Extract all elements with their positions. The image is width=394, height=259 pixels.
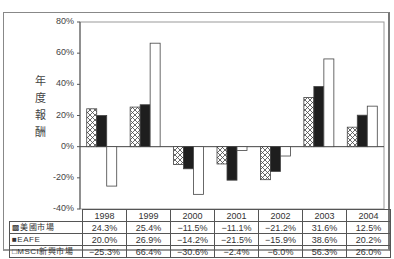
table-cell: −14.2%	[171, 234, 215, 246]
bar	[150, 43, 160, 146]
table-cell: −2.4%	[215, 246, 259, 258]
plot-border	[80, 22, 384, 209]
table-year-header: 1999	[127, 210, 171, 222]
bar	[347, 127, 357, 146]
bar	[367, 106, 377, 147]
bar	[304, 97, 314, 146]
table-cell: 26.9%	[127, 234, 171, 246]
table-year-header: 2001	[215, 210, 259, 222]
table-year-header: 2000	[171, 210, 215, 222]
table-cell: 38.6%	[303, 234, 347, 246]
bar	[184, 147, 194, 169]
bar	[217, 147, 227, 164]
bar	[194, 147, 204, 195]
bar	[260, 147, 270, 180]
legend-series-label: ▩美國市場	[10, 222, 83, 234]
table-cell: 20.2%	[347, 234, 391, 246]
table-cell: −30.6%	[171, 246, 215, 258]
table-row: □MSCI新興市場−25.3%66.4%−30.6%−2.4%−6.0%56.3…	[10, 246, 391, 258]
table-year-header: 2004	[347, 210, 391, 222]
bar	[314, 87, 324, 147]
bar	[174, 147, 184, 165]
table-cell: −6.0%	[259, 246, 303, 258]
bar	[270, 147, 280, 172]
bar	[324, 59, 334, 147]
table-cell: 24.3%	[83, 222, 127, 234]
table-cell: 66.4%	[127, 246, 171, 258]
table-cell: −15.9%	[259, 234, 303, 246]
table-year-header: 2003	[303, 210, 347, 222]
bar	[280, 147, 290, 156]
table-year-header: 2002	[259, 210, 303, 222]
table-row: ▩美國市場24.3%25.4%−11.5%−11.1%−21.2%31.6%12…	[10, 222, 391, 234]
table-cell: 25.4%	[127, 222, 171, 234]
table-row: ■EAFE20.0%26.9%−14.2%−21.5%−15.9%38.6%20…	[10, 234, 391, 246]
table-cell: 26.0%	[347, 246, 391, 258]
table-cell: 20.0%	[83, 234, 127, 246]
bar	[87, 109, 97, 147]
table-cell: −21.2%	[259, 222, 303, 234]
bar	[107, 147, 117, 186]
table-year-header: 1998	[83, 210, 127, 222]
table-cell: −11.1%	[215, 222, 259, 234]
bar	[357, 115, 367, 146]
data-table: 1998199920002001200220032004▩美國市場24.3%25…	[9, 209, 391, 258]
table-cell: 12.5%	[347, 222, 391, 234]
table-cell: −25.3%	[83, 246, 127, 258]
table-cell: −11.5%	[171, 222, 215, 234]
bar	[130, 107, 140, 147]
bar	[97, 116, 107, 147]
bar	[237, 147, 247, 151]
legend-series-label: ■EAFE	[10, 234, 83, 246]
legend-series-label: □MSCI新興市場	[10, 246, 83, 258]
table-cell: 56.3%	[303, 246, 347, 258]
table-cell: 31.6%	[303, 222, 347, 234]
bar	[140, 105, 150, 147]
bar	[227, 147, 237, 181]
table-cell: −21.5%	[215, 234, 259, 246]
table-corner	[10, 210, 83, 222]
